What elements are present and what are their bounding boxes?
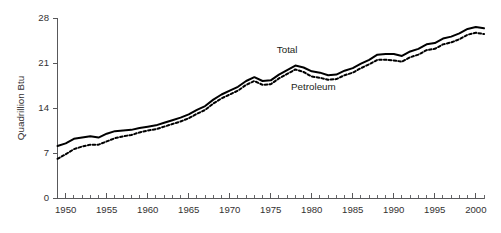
y-axis-group: 07142128: [38, 12, 57, 203]
x-tick-label: 1955: [96, 204, 117, 215]
line-chart: 07142128 1950195519601965197019751980198…: [0, 0, 501, 233]
x-tick-label: 1980: [301, 204, 322, 215]
x-tick-label: 1970: [219, 204, 240, 215]
x-tick-label: 1965: [178, 204, 199, 215]
y-tick-label: 21: [38, 57, 49, 68]
series-line-petroleum: [58, 33, 485, 159]
x-tick-label: 1990: [383, 204, 404, 215]
x-tick-label: 1985: [342, 204, 363, 215]
series-line-total: [58, 27, 485, 146]
x-tick-label: 1995: [424, 204, 445, 215]
y-tick-label: 7: [44, 147, 49, 158]
y-axis-title: Quadrillion Btu: [15, 76, 26, 140]
y-tick-label: 14: [38, 102, 49, 113]
y-axis-ticks: [53, 18, 58, 198]
x-axis-tick-labels: 1950195519601965197019751980198519901995…: [55, 204, 486, 215]
x-tick-label: 2000: [465, 204, 486, 215]
x-tick-label: 1950: [55, 204, 76, 215]
x-tick-label: 1960: [137, 204, 158, 215]
x-axis-major-ticks: [66, 193, 476, 199]
chart-figure: 07142128 1950195519601965197019751980198…: [0, 0, 501, 233]
x-tick-label: 1975: [260, 204, 281, 215]
series-label-petroleum: Petroleum: [291, 81, 336, 92]
y-tick-label: 28: [38, 12, 49, 23]
series-group: [58, 27, 485, 159]
x-axis-group: 1950195519601965197019751980198519901995…: [55, 193, 486, 216]
y-axis-tick-labels: 07142128: [38, 12, 49, 203]
series-label-total: Total: [277, 44, 298, 55]
y-tick-label: 0: [44, 192, 49, 203]
